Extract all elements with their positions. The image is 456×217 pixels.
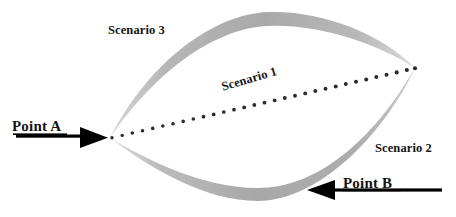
scenario-path-diagram: Scenario 3 Scenario 1 Scenario 2 Point A… bbox=[0, 0, 456, 217]
scenario-3-label: Scenario 3 bbox=[108, 23, 165, 38]
point-a-label: Point A bbox=[12, 118, 61, 135]
scenario-2-label: Scenario 2 bbox=[375, 141, 432, 156]
point-b-label: Point B bbox=[343, 175, 392, 192]
